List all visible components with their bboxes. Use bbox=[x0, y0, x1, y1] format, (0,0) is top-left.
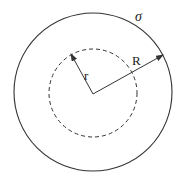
concentric-circles-diagram: σ r R bbox=[0, 0, 183, 177]
r-label: r bbox=[84, 68, 89, 83]
radius-R-arrow bbox=[93, 55, 163, 94]
sigma-label: σ bbox=[135, 9, 143, 24]
R-label: R bbox=[132, 53, 141, 68]
radius-r-arrow bbox=[71, 54, 93, 94]
outer-circle bbox=[14, 13, 172, 171]
